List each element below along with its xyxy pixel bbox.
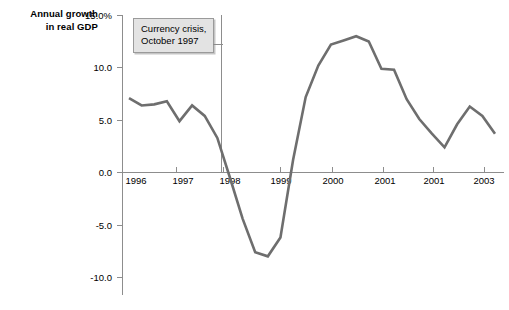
annotation-line-2: October 1997	[141, 35, 206, 47]
annotation-line-1: Currency crisis,	[141, 23, 206, 35]
gdp-growth-series-path	[129, 36, 495, 256]
chart-screenshot: Annual growth in real GDP 15.0% 10.0 5.0…	[0, 0, 509, 310]
y-axis-ticks	[117, 16, 123, 278]
annotation-callout: Currency crisis, October 1997	[133, 18, 214, 53]
x-axis-ticks	[177, 167, 485, 173]
plot-area	[0, 0, 509, 310]
annotation-leader-line	[213, 44, 223, 45]
